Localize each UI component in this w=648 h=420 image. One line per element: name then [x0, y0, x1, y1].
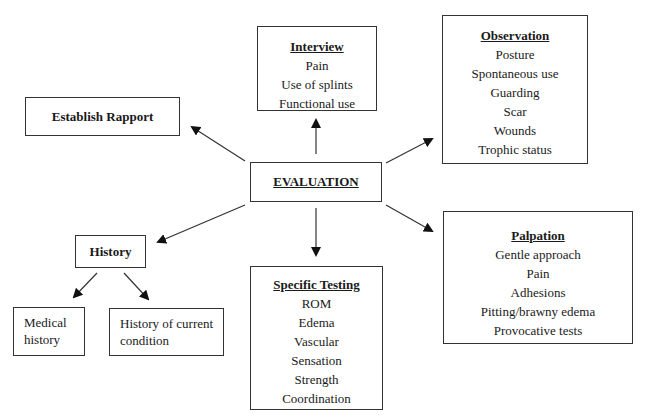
observation-item: Scar [443, 102, 587, 121]
current-condition-label: History of current condition [120, 316, 213, 348]
interview-title: Interview [258, 37, 376, 56]
medical-history-box: Medical history [13, 307, 85, 356]
palpation-item: Provocative tests [444, 321, 632, 340]
current-condition-box: History of current condition [109, 308, 224, 356]
observation-box: Observation Posture Spontaneous use Guar… [442, 15, 588, 164]
observation-item: Posture [443, 45, 587, 64]
history-label: History [76, 236, 145, 267]
palpation-item: Gentle approach [444, 245, 632, 264]
specific-testing-title: Specific Testing [251, 275, 382, 294]
specific-testing-item: ROM [251, 294, 382, 313]
medical-history-label: Medical history [24, 315, 67, 347]
evaluation-label: EVALUATION [251, 163, 381, 201]
observation-title: Observation [443, 26, 587, 45]
interview-item: Functional use [258, 94, 376, 113]
specific-testing-item: Vascular [251, 332, 382, 351]
specific-testing-item: Edema [251, 313, 382, 332]
interview-item: Use of splints [258, 75, 376, 94]
specific-testing-item: Coordination [251, 389, 382, 408]
evaluation-box: EVALUATION [250, 162, 382, 202]
history-box: History [75, 235, 146, 268]
palpation-title: Palpation [444, 226, 632, 245]
observation-item: Guarding [443, 83, 587, 102]
specific-testing-item: Strength [251, 370, 382, 389]
specific-testing-box: Specific Testing ROM Edema Vascular Sens… [250, 266, 383, 410]
palpation-item: Pain [444, 264, 632, 283]
palpation-item: Adhesions [444, 283, 632, 302]
observation-item: Trophic status [443, 140, 587, 159]
establish-rapport-label: Establish Rapport [26, 98, 179, 135]
interview-box: Interview Pain Use of splints Functional… [257, 26, 377, 111]
establish-rapport-box: Establish Rapport [25, 97, 180, 136]
palpation-item: Pitting/brawny edema [444, 302, 632, 321]
observation-item: Wounds [443, 121, 587, 140]
palpation-box: Palpation Gentle approach Pain Adhesions… [443, 211, 633, 344]
interview-item: Pain [258, 56, 376, 75]
observation-item: Spontaneous use [443, 64, 587, 83]
specific-testing-item: Sensation [251, 351, 382, 370]
